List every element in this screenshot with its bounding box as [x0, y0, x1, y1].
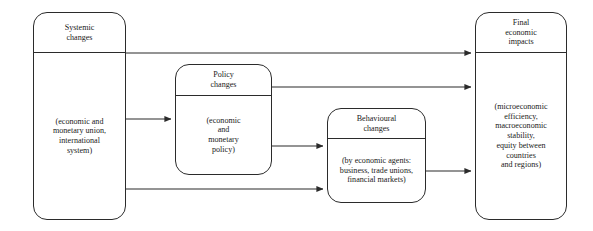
node-behavioural-changes-title: Behavioural changes	[328, 109, 425, 139]
node-final-economic-impacts-body: (microeconomic efficiency, macroeconomic…	[476, 53, 566, 219]
node-policy-changes-title: Policy changes	[176, 65, 271, 96]
node-behavioural-changes-body: (by economic agents: business, trade uni…	[328, 139, 425, 202]
node-systemic-changes[interactable]: Systemic changes (economic and monetary …	[33, 12, 126, 220]
node-systemic-changes-title: Systemic changes	[34, 13, 125, 53]
node-policy-changes-body: (economic and monetary policy)	[176, 96, 271, 174]
node-final-economic-impacts[interactable]: Final economic impacts (microeconomic ef…	[475, 12, 567, 220]
node-systemic-changes-body: (economic and monetary union, internatio…	[34, 53, 125, 219]
node-behavioural-changes[interactable]: Behavioural changes (by economic agents:…	[327, 108, 426, 203]
node-policy-changes[interactable]: Policy changes (economic and monetary po…	[175, 64, 272, 175]
node-final-economic-impacts-title: Final economic impacts	[476, 13, 566, 53]
flow-diagram: Systemic changes (economic and monetary …	[0, 0, 593, 231]
